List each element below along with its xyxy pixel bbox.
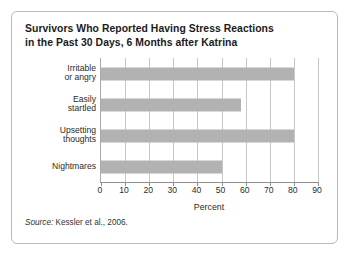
- chart-title-line-1: Survivors Who Reported Having Stress Rea…: [25, 22, 325, 36]
- gridline: [294, 58, 295, 182]
- x-axis-tick-label: 40: [192, 185, 202, 195]
- figure-card: Survivors Who Reported Having Stress Rea…: [11, 11, 338, 244]
- y-axis-label: Upsettingthoughts: [20, 126, 96, 146]
- x-axis-tick-label: 90: [312, 185, 322, 195]
- source-note: Source: Kessler et al., 2006.: [25, 218, 128, 227]
- y-axis-label: Irritableor angry: [20, 64, 96, 84]
- source-label: Source:: [25, 218, 53, 227]
- x-axis-tick-labels: 0102030405060708090: [100, 185, 318, 199]
- x-axis-tick-label: 60: [240, 185, 250, 195]
- bar: [101, 129, 294, 142]
- x-axis-tick-label: 0: [98, 185, 103, 195]
- y-axis-label: Nightmares: [20, 162, 96, 172]
- y-axis-category-labels: Irritableor angryEasilystartledUpsetting…: [20, 58, 96, 183]
- x-axis-tick-label: 20: [143, 185, 153, 195]
- source-citation: Kessler et al., 2006.: [53, 218, 128, 227]
- x-axis-title: Percent: [100, 202, 318, 212]
- bar: [101, 98, 241, 111]
- chart-plot-wrapper: Irritableor angryEasilystartledUpsetting…: [12, 58, 339, 198]
- x-axis-tick-label: 10: [119, 185, 129, 195]
- x-axis-tick-label: 30: [168, 185, 178, 195]
- bar: [101, 67, 294, 80]
- plot-area: [100, 58, 318, 183]
- x-axis-tick-label: 50: [216, 185, 226, 195]
- y-axis-label: Easilystartled: [20, 95, 96, 115]
- x-axis-tick-label: 70: [264, 185, 274, 195]
- gridline: [318, 58, 319, 182]
- x-axis-tick-label: 80: [288, 185, 298, 195]
- chart-title: Survivors Who Reported Having Stress Rea…: [25, 22, 325, 49]
- bar: [101, 160, 222, 173]
- chart-title-line-2: in the Past 30 Days, 6 Months after Katr…: [25, 36, 325, 50]
